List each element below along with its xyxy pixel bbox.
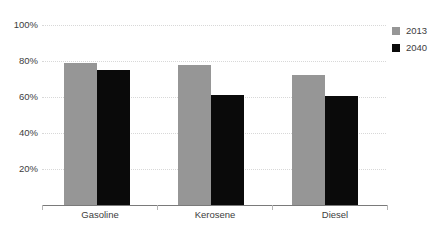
y-axis-tick-label: 20% xyxy=(2,164,38,174)
bar-gasoline-2040 xyxy=(97,70,130,205)
y-axis-tick-label: 40% xyxy=(2,128,38,138)
bar-chart: 100% 80% 60% 40% 20% Gasoline Kerosene D… xyxy=(0,0,446,231)
x-axis-tick xyxy=(272,205,273,210)
legend: 2013 2040 xyxy=(392,22,446,56)
x-axis-category-label-diesel: Diesel xyxy=(290,209,380,221)
legend-swatch-icon xyxy=(392,27,400,35)
chart-title-cropped xyxy=(60,0,390,5)
x-axis-category-label-kerosene: Kerosene xyxy=(170,209,260,221)
x-axis-category-label-gasoline: Gasoline xyxy=(55,209,145,221)
legend-label: 2013 xyxy=(406,26,427,36)
legend-swatch-icon xyxy=(392,44,400,52)
y-axis-tick-label: 100% xyxy=(2,20,38,30)
x-axis-tick xyxy=(42,205,43,210)
bar-diesel-2040 xyxy=(325,96,358,205)
bar-diesel-2013 xyxy=(292,75,325,205)
legend-item-2013[interactable]: 2013 xyxy=(392,22,446,39)
plot-area xyxy=(42,25,386,205)
y-axis-tick-label: 80% xyxy=(2,56,38,66)
y-axis-tick-label: 60% xyxy=(2,92,38,102)
x-axis-tick xyxy=(387,205,388,210)
x-axis-line xyxy=(42,205,388,206)
bar-kerosene-2040 xyxy=(211,95,244,205)
legend-label: 2040 xyxy=(406,43,427,53)
x-axis-tick xyxy=(157,205,158,210)
y-axis-labels: 100% 80% 60% 40% 20% xyxy=(0,25,38,205)
gridline-100 xyxy=(42,25,386,26)
legend-item-2040[interactable]: 2040 xyxy=(392,39,446,56)
bar-kerosene-2013 xyxy=(178,65,211,205)
bar-gasoline-2013 xyxy=(64,63,97,205)
